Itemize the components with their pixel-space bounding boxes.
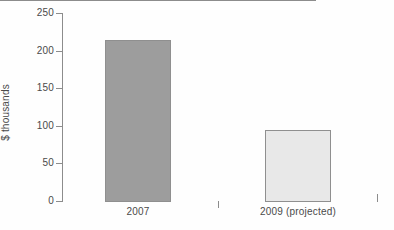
x-tick-label-2007: 2007 [105, 206, 171, 217]
y-tick-250 [56, 13, 63, 14]
x-axis-line [0, 0, 316, 1]
y-tick-label-50: 50 [42, 158, 54, 168]
y-tick-label-200: 200 [37, 46, 54, 56]
y-tick-150 [56, 88, 63, 89]
bar-2009-projected [265, 130, 331, 202]
y-tick-label-0: 0 [48, 196, 54, 206]
y-tick-200 [56, 51, 63, 52]
y-tick-label-100: 100 [37, 121, 54, 131]
y-axis-line [62, 13, 63, 202]
bar-chart: 250 200 150 100 50 0 $ thousands 2007 20… [0, 0, 394, 230]
y-tick-label-150: 150 [37, 83, 54, 93]
x-axis-category-divider-tick [218, 201, 219, 208]
y-tick-0 [56, 201, 63, 202]
bar-2007 [105, 40, 171, 202]
y-tick-100 [56, 126, 63, 127]
y-axis-title: $ thousands [0, 53, 11, 173]
x-tick-label-2009-projected: 2009 (projected) [243, 206, 353, 217]
y-tick-50 [56, 163, 63, 164]
x-axis-end-tick [377, 194, 378, 202]
y-tick-label-250: 250 [37, 8, 54, 18]
